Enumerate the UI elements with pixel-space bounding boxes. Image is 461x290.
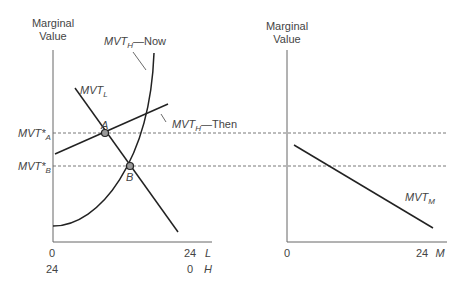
leader-now xyxy=(133,52,146,70)
label-point-a: A xyxy=(100,119,108,131)
var-m: M xyxy=(435,247,445,259)
label-point-b: B xyxy=(126,171,133,183)
curve-mvt-h-now xyxy=(53,53,154,226)
left-y-label-1: Marginal xyxy=(32,17,74,29)
label-mvt-star-a: MVT*A xyxy=(18,127,51,142)
label-mvt-h-then: MVTH—Then xyxy=(172,118,237,133)
var-h: H xyxy=(204,263,212,275)
tick-l-24: 24 xyxy=(184,247,196,259)
left-y-label-2: Value xyxy=(39,30,66,42)
tick-h-24: 24 xyxy=(46,263,58,275)
var-l: L xyxy=(205,247,211,259)
tick-m-24: 24 xyxy=(416,247,428,259)
right-y-label-1: Marginal xyxy=(266,20,308,32)
tick-l-0: 0 xyxy=(49,247,55,259)
curve-mvt-l xyxy=(75,88,178,232)
diagram-canvas: Marginal Value MVTH—Now MVTL MVTH—Then M… xyxy=(0,0,461,290)
label-mvt-star-b: MVT*B xyxy=(18,160,52,175)
point-b-marker xyxy=(127,163,134,170)
tick-m-0: 0 xyxy=(284,247,290,259)
label-mvt-h-now: MVTH—Now xyxy=(104,35,166,50)
curve-mvt-h-then xyxy=(55,104,168,154)
leader-then xyxy=(161,114,166,122)
label-mvt-l: MVTL xyxy=(80,84,108,99)
tick-h-0: 0 xyxy=(187,263,193,275)
right-y-label-2: Value xyxy=(273,33,300,45)
label-mvt-m: MVTM xyxy=(405,191,435,206)
curve-mvt-m xyxy=(294,145,433,228)
